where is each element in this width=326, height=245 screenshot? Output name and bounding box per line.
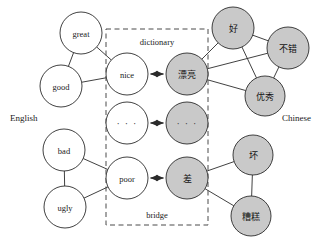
node-label-huai: 坏: [249, 150, 258, 161]
node-label-bad: bad: [58, 146, 71, 156]
node-ugly[interactable]: ugly: [44, 186, 86, 228]
side-label-chinese: Chinese: [282, 113, 311, 123]
node-label-nice: nice: [120, 70, 134, 80]
node-label-great: great: [73, 29, 91, 39]
node-label-piaoliang: 漂亮: [178, 69, 196, 80]
node-zaogao[interactable]: 糟糕: [231, 196, 271, 236]
edge-hao-bucuo: [253, 35, 269, 41]
node-bad[interactable]: bad: [43, 129, 85, 171]
edge-hao-youxiu: [242, 47, 257, 78]
edge-good-nice: [82, 78, 107, 82]
node-label-bucuo: 不错: [279, 43, 297, 54]
node-poor[interactable]: poor: [106, 157, 148, 199]
box-label-bridge: bridge: [146, 210, 168, 220]
node-youxiu[interactable]: 优秀: [245, 76, 285, 116]
box-label-dictionary: dictionary: [140, 37, 175, 47]
node-nice[interactable]: nice: [106, 53, 148, 95]
node-label-youxiu: 优秀: [256, 91, 274, 102]
node-great[interactable]: great: [60, 12, 102, 54]
edge-piaoliang-hao: [202, 43, 218, 59]
node-piaoliang[interactable]: 漂亮: [166, 53, 208, 95]
node-dots_zh[interactable]: · · ·: [166, 102, 208, 144]
node-cha[interactable]: 差: [166, 157, 208, 199]
edge-bad-poor: [83, 159, 108, 170]
node-label-ugly: ugly: [57, 203, 73, 213]
edge-piaoliang-youxiu: [207, 80, 246, 91]
edge-cha-zaogao: [205, 189, 234, 206]
node-good[interactable]: good: [40, 65, 82, 107]
node-label-hao: 好: [229, 23, 238, 34]
node-label-poor: poor: [119, 174, 135, 184]
node-hao[interactable]: 好: [212, 7, 254, 49]
side-label-english: English: [10, 113, 38, 123]
edge-cha-huai: [207, 162, 234, 172]
node-label-good: good: [53, 82, 71, 92]
node-huai[interactable]: 坏: [233, 135, 273, 175]
bridge-edges-layer: [151, 74, 164, 178]
edge-ugly-poor: [84, 187, 108, 198]
node-dots_en[interactable]: · · ·: [106, 102, 148, 144]
edge-piaoliang-bucuo: [207, 53, 267, 69]
edge-huai-zaogao: [252, 175, 253, 196]
edge-great-nice: [97, 47, 112, 60]
node-label-cha: 差: [183, 173, 192, 184]
node-label-zaogao: 糟糕: [242, 211, 260, 222]
translation-graph-diagram: dictionarybridge greatgoodnice· · ·poorb…: [0, 0, 326, 245]
graph-canvas: dictionarybridge greatgoodnice· · ·poorb…: [0, 0, 326, 245]
node-label-dots_zh: · · ·: [177, 118, 198, 129]
edge-bucuo-youxiu: [274, 67, 279, 78]
nodes-layer: greatgoodnice· · ·poorbadugly漂亮· · ·差好不错…: [40, 7, 309, 236]
node-label-dots_en: · · ·: [117, 118, 138, 129]
edge-great-good: [68, 53, 73, 67]
node-bucuo[interactable]: 不错: [267, 27, 309, 69]
